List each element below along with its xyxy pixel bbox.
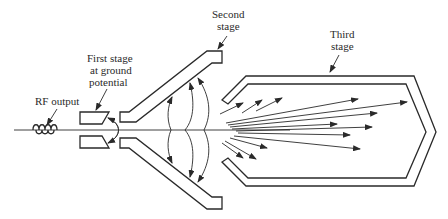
first-stage-pointer <box>96 89 107 110</box>
svg-text:stage: stage <box>331 40 354 52</box>
svg-text:Second: Second <box>212 8 245 20</box>
svg-text:at ground: at ground <box>90 64 132 76</box>
svg-text:First stage: First stage <box>87 52 133 64</box>
second-stage-pointer <box>218 36 227 49</box>
second-stage-label: Second stage <box>212 8 245 32</box>
depressed-collector-diagram: RF output First stage at ground potentia… <box>0 0 448 219</box>
third-stage-label: Third stage <box>330 28 355 52</box>
svg-text:Third: Third <box>330 28 355 40</box>
svg-text:potential: potential <box>89 76 128 88</box>
third-stage-electrode <box>222 76 436 186</box>
rf-output-label: RF output <box>35 95 79 107</box>
first-stage-label: First stage at ground potential <box>87 52 133 88</box>
rf-coil-icon <box>33 125 57 134</box>
electron-trajectories <box>220 98 407 159</box>
rf-output-pointer <box>47 109 57 125</box>
svg-text:stage: stage <box>217 20 240 32</box>
third-stage-pointer <box>330 55 339 72</box>
